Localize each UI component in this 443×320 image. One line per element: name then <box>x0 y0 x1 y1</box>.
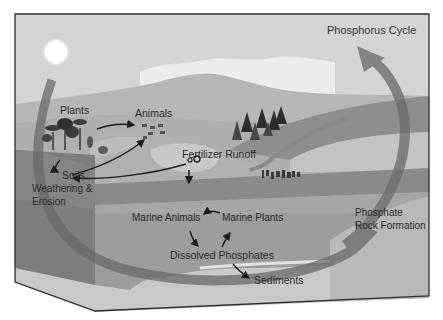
label-erosion: Erosion <box>32 197 66 207</box>
label-dissolved-phosphates: Dissolved Phosphates <box>170 250 274 261</box>
label-fertilizer-runoff: Fertilizer Runoff <box>182 149 256 160</box>
label-marine-animals: Marine Animals <box>132 213 200 223</box>
label-plants: Plants <box>60 105 89 116</box>
label-rock-formation: Rock Formation <box>355 221 426 231</box>
label-phosphate: Phosphate <box>355 208 403 218</box>
phosphorus-cycle-diagram: Phosphorus Cycle Plants Animals Fertiliz… <box>0 0 443 320</box>
label-animals: Animals <box>135 108 172 119</box>
diagram-canvas <box>0 0 443 320</box>
label-marine-plants: Marine Plants <box>222 213 283 223</box>
label-soils: Soils <box>62 170 85 181</box>
diagram-title: Phosphorus Cycle <box>327 25 416 36</box>
sun-icon <box>41 37 71 67</box>
label-sediments: Sediments <box>254 275 304 286</box>
label-weathering: Weathering & <box>32 184 92 194</box>
